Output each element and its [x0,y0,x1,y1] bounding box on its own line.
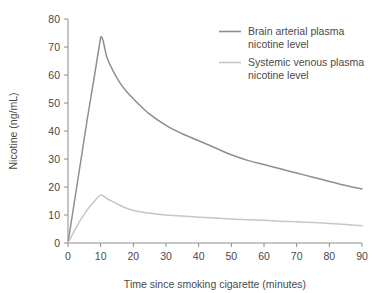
y-tick-label: 50 [48,97,60,109]
legend-label-systemic-venous-line1: Systemic venous plasma [248,56,364,68]
y-axis-ticks: 01020304050607080 [48,13,68,249]
y-tick-label: 70 [48,41,60,53]
y-tick-label: 40 [48,125,60,137]
chart-legend: Brain arterial plasma nicotine level Sys… [219,25,364,81]
x-tick-label: 20 [127,250,139,262]
legend-label-systemic-venous-line2: nicotine level [248,69,309,81]
y-tick-label: 20 [48,181,60,193]
y-tick-label: 30 [48,153,60,165]
x-tick-label: 80 [323,250,335,262]
x-axis-ticks: 0102030405060708090 [65,243,368,262]
x-tick-label: 70 [291,250,303,262]
y-tick-label: 10 [48,209,60,221]
x-tick-label: 90 [356,250,368,262]
y-tick-label: 60 [48,69,60,81]
x-tick-label: 50 [225,250,237,262]
x-axis-title: Time since smoking cigarette (minutes) [124,278,306,290]
y-axis-title: Nicotine (ng/mL) [7,92,19,169]
series-line-systemic-venous [68,195,362,243]
chart-container: 01020304050607080 0102030405060708090 Ti… [0,0,389,293]
x-tick-label: 60 [258,250,270,262]
x-tick-label: 0 [65,250,71,262]
x-tick-label: 30 [160,250,172,262]
x-tick-label: 10 [95,250,107,262]
y-tick-label: 80 [48,13,60,25]
legend-label-brain-arterial-line2: nicotine level [248,38,309,50]
legend-label-brain-arterial-line1: Brain arterial plasma [248,25,344,37]
line-chart-figure: 01020304050607080 0102030405060708090 Ti… [0,0,389,293]
y-tick-label: 0 [54,237,60,249]
x-tick-label: 40 [193,250,205,262]
